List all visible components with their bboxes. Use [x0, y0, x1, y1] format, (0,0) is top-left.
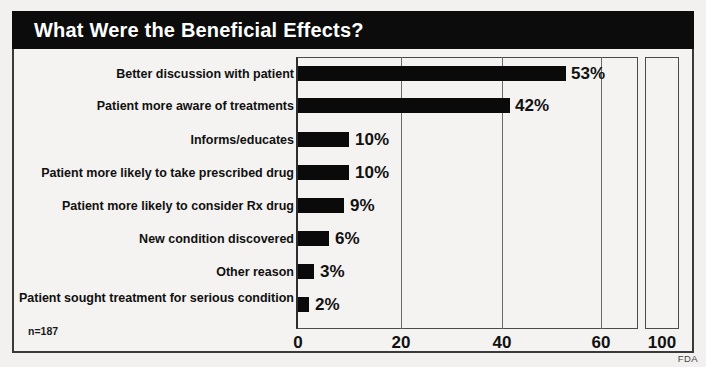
- page-title: What Were the Beneficial Effects?: [34, 19, 364, 42]
- bar-row: Informs/educates 10%: [14, 132, 692, 162]
- bar-other-reason: [298, 264, 314, 279]
- bar-patient-more-likely-to-take-prescribed-drug: [298, 165, 349, 180]
- bar-patient-more-likely-to-consider-rx-drug: [298, 198, 344, 213]
- bar-row: Patient more likely to consider Rx drug …: [14, 198, 692, 228]
- source-credit: FDA: [678, 353, 698, 364]
- bar-value-label: 3%: [320, 262, 345, 282]
- category-label: Patient sought treatment for serious con…: [4, 291, 294, 305]
- bar-value-label: 42%: [515, 96, 549, 116]
- xtick-label-60: 60: [592, 333, 611, 353]
- xtick-label-100: 100: [648, 333, 676, 353]
- chart-plot-area: 0 20 40 60 100 Better discussion with pa…: [14, 50, 692, 351]
- bar-value-label: 10%: [355, 163, 389, 183]
- category-label: Other reason: [4, 265, 294, 279]
- bar-value-label: 10%: [355, 130, 389, 150]
- sample-size-note: n=187: [28, 325, 58, 337]
- bar-better-discussion-with-patient: [298, 66, 566, 81]
- category-label: Informs/educates: [4, 133, 294, 147]
- category-label: Patient more aware of treatments: [4, 99, 294, 113]
- bar-value-label: 9%: [350, 196, 375, 216]
- bar-row: Better discussion with patient 53%: [14, 66, 692, 96]
- xtick-label-20: 20: [392, 333, 411, 353]
- bar-new-condition-discovered: [298, 231, 329, 246]
- category-label: Patient more likely to consider Rx drug: [4, 199, 294, 213]
- bar-row: Other reason 3%: [14, 264, 692, 294]
- title-banner: What Were the Beneficial Effects?: [12, 11, 694, 49]
- bar-patient-sought-treatment-for-serious-condition: [298, 297, 309, 312]
- slide-screenshot: What Were the Beneficial Effects? 0 20 4…: [0, 0, 706, 367]
- category-label: New condition discovered: [4, 232, 294, 246]
- bar-informs-educates: [298, 132, 349, 147]
- bar-value-label: 2%: [315, 295, 340, 315]
- xtick-label-0: 0: [293, 333, 302, 353]
- bar-row: Patient more likely to take prescribed d…: [14, 165, 692, 195]
- xtick-label-40: 40: [493, 333, 512, 353]
- bar-row: New condition discovered 6%: [14, 231, 692, 261]
- bar-value-label: 53%: [571, 64, 605, 84]
- category-label: Better discussion with patient: [4, 67, 294, 81]
- bar-patient-more-aware-of-treatments: [298, 98, 510, 113]
- bar-value-label: 6%: [335, 229, 360, 249]
- bar-row: Patient sought treatment for serious con…: [14, 297, 692, 327]
- category-label: Patient more likely to take prescribed d…: [4, 166, 294, 180]
- bar-row: Patient more aware of treatments 42%: [14, 98, 692, 128]
